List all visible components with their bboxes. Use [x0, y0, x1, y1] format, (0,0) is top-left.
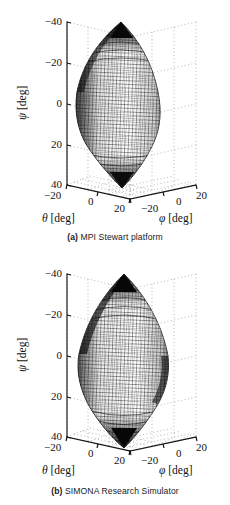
plot-a-psi-tick-3: 20	[24, 139, 62, 150]
theta-symbol: θ	[42, 464, 48, 476]
caption-a-text: MPI Stewart platform	[81, 232, 163, 242]
phi-symbol: φ	[159, 212, 165, 224]
plot-a-theta-tick-2: 20	[114, 203, 125, 214]
plot-b-phi-axis-label: φ [deg]	[159, 464, 193, 476]
plot-a-phi-tick-2: 20	[196, 190, 207, 201]
psi-symbol: ψ	[16, 113, 28, 120]
plot-a-phi-tick-1: 0	[176, 196, 182, 207]
plot-a-psi-ticks	[67, 22, 71, 186]
plot-a-theta-axis-label: θ [deg]	[42, 212, 75, 224]
plot-a-surface	[60, 18, 170, 198]
psi-unit: [deg]	[16, 86, 28, 110]
plot-b-phi-tick-1: 0	[176, 448, 182, 459]
plot-b-psi-tick-0: −40	[24, 268, 62, 279]
caption-b: (b) SIMONA Research Simulator	[0, 486, 230, 496]
plot-a-psi-tick-0: −40	[24, 16, 62, 27]
plot-b-theta-axis-label: θ [deg]	[42, 464, 75, 476]
plot-a-phi-tick-0: −20	[141, 203, 158, 214]
plot-b-psi-tick-2: 0	[24, 350, 62, 361]
plot-a-phi-axis-label: φ [deg]	[159, 212, 193, 224]
plot-b-theta-tick-1: 0	[88, 448, 94, 459]
caption-b-text: SIMONA Research Simulator	[65, 486, 179, 496]
plot-a-psi-tick-1: −20	[24, 57, 62, 68]
phi-unit: [deg]	[168, 464, 192, 476]
plot-b-psi-ticks	[67, 274, 71, 438]
plot-a-psi-axis-label: ψ [deg]	[16, 86, 28, 120]
plot-a-psi-tick-2: 0	[24, 98, 62, 109]
plot-b-canvas: −40 −20 0 20 40 −20 0 20 −20 0 20 ψ [deg…	[0, 252, 230, 474]
plot-a-theta-tick-0: −20	[44, 190, 61, 201]
plot-b-theta-tick-0: −20	[44, 442, 61, 453]
theta-unit: [deg]	[51, 212, 75, 224]
caption-a: (a) MPI Stewart platform	[0, 232, 230, 242]
panel-b: −40 −20 0 20 40 −20 0 20 −20 0 20 ψ [deg…	[0, 252, 230, 505]
plot-b-theta-tick-2: 20	[114, 455, 125, 466]
caption-b-tag: (b)	[51, 486, 62, 496]
plot-b-surface	[60, 270, 180, 460]
phi-unit: [deg]	[168, 212, 192, 224]
plot-b-phi-tick-0: −20	[141, 455, 158, 466]
plot-a-theta-tick-1: 0	[88, 196, 94, 207]
plot-b-phi-tick-2: 20	[196, 442, 207, 453]
panel-a: −40 −20 0 20 40 −20 0 20 −20 0 20 ψ [deg…	[0, 0, 230, 252]
plot-b-psi-axis-label: ψ [deg]	[16, 338, 28, 372]
theta-symbol: θ	[42, 212, 48, 224]
plot-a-canvas: −40 −20 0 20 40 −20 0 20 −20 0 20 ψ [deg…	[0, 0, 230, 222]
psi-unit: [deg]	[16, 338, 28, 362]
psi-symbol: ψ	[16, 365, 28, 372]
caption-a-tag: (a)	[67, 232, 78, 242]
phi-symbol: φ	[159, 464, 165, 476]
plot-b-psi-tick-1: −20	[24, 309, 62, 320]
figure-two-panel-workspace-plots: −40 −20 0 20 40 −20 0 20 −20 0 20 ψ [deg…	[0, 0, 230, 505]
theta-unit: [deg]	[51, 464, 75, 476]
plot-b-psi-tick-3: 20	[24, 391, 62, 402]
